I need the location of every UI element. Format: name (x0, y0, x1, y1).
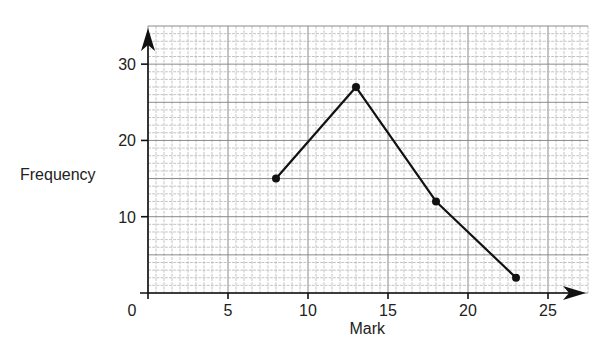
x-tick-label: 20 (459, 302, 477, 319)
y-tick-label: 20 (118, 132, 136, 149)
y-tick-label: 30 (118, 56, 136, 73)
data-point (432, 197, 440, 205)
x-tick-label: 25 (539, 302, 557, 319)
y-axis-label: Frequency (20, 166, 96, 183)
data-point (352, 83, 360, 91)
data-point (512, 274, 520, 282)
x-axis-label: Mark (349, 320, 386, 337)
axes (140, 28, 586, 300)
data-point (272, 175, 280, 183)
x-tick-label: 0 (128, 302, 137, 319)
x-tick-label: 15 (379, 302, 397, 319)
frequency-polygon-chart: 0510152025102030 Mark Frequency (0, 0, 607, 355)
y-tick-label: 10 (118, 209, 136, 226)
x-tick-label: 10 (299, 302, 317, 319)
grid (148, 26, 588, 293)
tick-labels: 0510152025102030 (118, 56, 557, 319)
x-tick-label: 5 (224, 302, 233, 319)
